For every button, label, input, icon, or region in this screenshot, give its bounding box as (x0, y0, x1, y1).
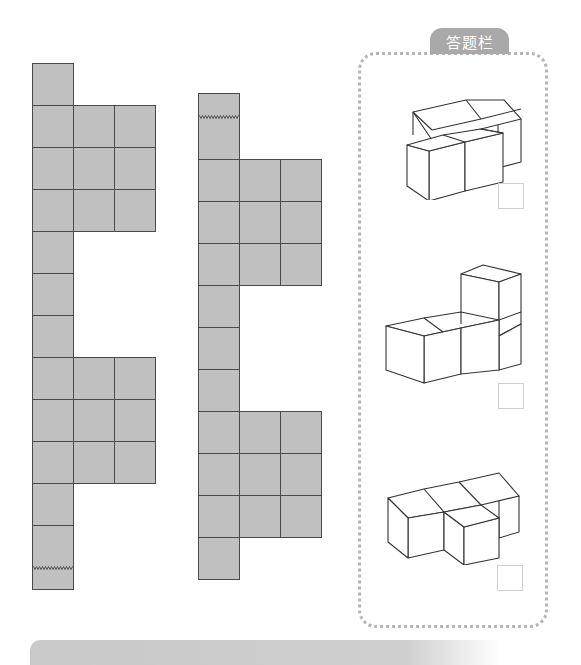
net-cell (114, 147, 156, 190)
net-cell (280, 411, 322, 454)
net-cell (73, 441, 115, 484)
net-cell (280, 495, 322, 538)
net-cell (239, 495, 281, 538)
net-cell (239, 243, 281, 286)
net-cell (198, 201, 240, 244)
net-cell (32, 189, 74, 232)
net-cell (198, 411, 240, 454)
net-cell (32, 483, 74, 526)
net-cell (32, 441, 74, 484)
net-cell (280, 159, 322, 202)
net-cell (73, 357, 115, 400)
net-cell (198, 369, 240, 412)
net-cell (280, 453, 322, 496)
net-cell (32, 273, 74, 316)
net-cell (32, 399, 74, 442)
net-cell (73, 105, 115, 148)
net-cell (32, 105, 74, 148)
net-cell (198, 537, 240, 580)
net-cell (32, 357, 74, 400)
net-cell (198, 495, 240, 538)
net-cell (32, 315, 74, 358)
net-cell (239, 411, 281, 454)
answer-panel-title: 答题栏 (430, 28, 509, 54)
net-cell (239, 159, 281, 202)
net-cell (114, 441, 156, 484)
net-cell (73, 399, 115, 442)
net-cell (280, 243, 322, 286)
net-cell (114, 189, 156, 232)
net-cell (73, 189, 115, 232)
net-cell (32, 525, 74, 590)
net-cell (32, 147, 74, 190)
footer-bar (30, 640, 500, 665)
option-c-checkbox[interactable] (497, 565, 523, 591)
net-cell (280, 201, 322, 244)
net-cell (198, 285, 240, 328)
net-cell (114, 357, 156, 400)
net-cell (114, 399, 156, 442)
net-cell (198, 453, 240, 496)
net-cell (198, 243, 240, 286)
option-b-checkbox[interactable] (498, 383, 524, 409)
net-cell (198, 327, 240, 370)
option-c-cube-figure (386, 470, 526, 565)
option-a-checkbox[interactable] (498, 183, 524, 209)
net-cell (198, 93, 240, 160)
net-cell (32, 63, 74, 106)
net-cell (114, 105, 156, 148)
net-cell (239, 201, 281, 244)
net-cell (32, 231, 74, 274)
zigzag-cut-icon (198, 115, 240, 119)
zigzag-cut-icon (32, 566, 74, 570)
net-cell (73, 147, 115, 190)
net-cell (198, 159, 240, 202)
option-b-cube-figure (384, 262, 524, 392)
net-cell (239, 453, 281, 496)
